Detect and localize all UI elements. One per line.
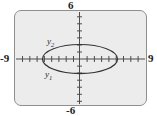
curve-label-y2: y2 <box>47 37 54 48</box>
curve-label-y2-subscript: 2 <box>51 41 54 48</box>
x-axis-max-label: 9 <box>148 53 154 64</box>
graph-screenshot: 6 -6 -9 9 y2 y1 <box>0 0 157 116</box>
curve-label-y1-subscript: 1 <box>49 74 52 81</box>
curve-label-y1: y1 <box>45 70 52 81</box>
y-axis-min-label: -6 <box>66 105 75 116</box>
x-axis-min-label: -9 <box>0 53 9 64</box>
plot-canvas <box>0 0 157 116</box>
y-axis-max-label: 6 <box>68 0 74 11</box>
